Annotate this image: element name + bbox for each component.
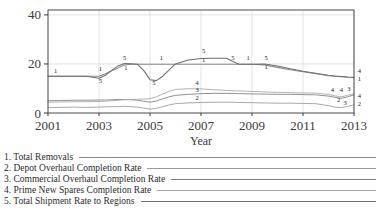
series-number-label: 5 [123, 54, 126, 61]
series-number-label: 1 [99, 65, 102, 72]
series-number-label: 5 [231, 54, 234, 61]
series-number-label: 4 [358, 67, 362, 74]
legend-label-4: 4. Prime New Spares Completion Rate [4, 185, 151, 196]
series-number-label: 1 [264, 63, 267, 70]
series-number-label: 1 [160, 54, 163, 61]
series-number-label: 5 [264, 54, 267, 61]
legend-item-commercial-overhaul[interactable]: 3. Commercial Overhaul Completion Rate [4, 174, 380, 185]
legend-item-total-removals[interactable]: 1. Total Removals [4, 152, 380, 163]
legend-label-1: 1. Total Removals [4, 152, 73, 163]
x-tick-label: 2007 [188, 118, 215, 133]
chart-legend: 1. Total Removals 2. Depot Overhaul Comp… [4, 152, 380, 207]
x-axis-ticks: 2001200320052007200920112013 [35, 113, 367, 133]
y-tick-label: 40 [28, 7, 41, 22]
series-number-label: 2 [358, 100, 361, 107]
legend-line-sample-4 [157, 190, 376, 191]
legend-line-sample-5 [141, 201, 376, 202]
series-number-label: 4 [358, 92, 362, 99]
series-number-label: 1 [124, 64, 127, 71]
series-number-label: 5 [152, 79, 155, 86]
series-number-label: 3 [347, 85, 350, 92]
legend-line-sample-1 [79, 157, 376, 158]
series-number-label: 2 [337, 96, 340, 103]
series-number-label: 3 [343, 99, 346, 106]
legend-line-sample-3 [171, 179, 376, 180]
legend-label-2: 2. Depot Overhaul Completion Rate [4, 163, 141, 174]
legend-item-total-shipment[interactable]: 5. Total Shipment Rate to Regions [4, 196, 380, 207]
series-number-label: 3 [196, 86, 199, 93]
series-number-label: 1 [358, 75, 361, 82]
x-axis-title: Year [190, 134, 212, 148]
y-axis-ticks: 02040 [28, 7, 48, 120]
series-number-label: 1 [247, 54, 250, 61]
y-tick-label: 20 [28, 56, 41, 71]
series-number-label: 5 [202, 47, 205, 54]
series-number-label: 1 [54, 67, 57, 74]
x-tick-label: 2003 [86, 118, 112, 133]
x-tick-label: 2005 [137, 118, 163, 133]
legend-label-5: 5. Total Shipment Rate to Regions [4, 196, 135, 207]
legend-item-depot-overhaul[interactable]: 2. Depot Overhaul Completion Rate [4, 163, 380, 174]
legend-line-sample-2 [147, 168, 376, 169]
line-chart-canvas: 02040 2001200320052007200920112013 11551… [0, 0, 383, 150]
series-number-label: 5 [99, 77, 102, 84]
series-number-label: 2 [196, 94, 199, 101]
chart-figure: 02040 2001200320052007200920112013 11551… [0, 0, 383, 210]
legend-label-3: 3. Commercial Overhaul Completion Rate [4, 174, 165, 185]
x-tick-label: 2001 [35, 118, 61, 133]
x-tick-label: 2009 [239, 118, 265, 133]
legend-item-prime-new-spares[interactable]: 4. Prime New Spares Completion Rate [4, 185, 380, 196]
series-number-label: 1 [202, 56, 205, 63]
x-tick-label: 2013 [341, 118, 367, 133]
x-tick-label: 2011 [290, 118, 316, 133]
